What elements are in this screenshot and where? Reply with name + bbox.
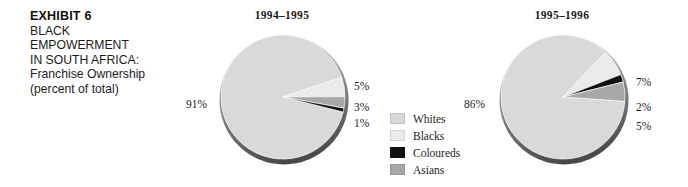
pct-label-right-blacks: 7% bbox=[636, 76, 651, 88]
pie-chart-1994-1995: 1994–1995 91% 5% 3% 1% bbox=[182, 0, 382, 187]
pie-svg-right bbox=[494, 27, 632, 167]
caption-line-3: IN SOUTH AFRICA: bbox=[30, 53, 185, 68]
legend-label-blacks: Blacks bbox=[413, 130, 444, 142]
exhibit-caption: EXHIBIT 6 BLACK EMPOWERMENT IN SOUTH AFR… bbox=[30, 9, 185, 96]
legend-label-whites: Whites bbox=[413, 113, 446, 125]
legend-swatch-asians-icon bbox=[390, 164, 405, 175]
pct-label-right-asians: 5% bbox=[636, 120, 651, 132]
exhibit-number: EXHIBIT 6 bbox=[30, 9, 185, 24]
pie-title-left: 1994–1995 bbox=[182, 9, 382, 21]
chart-legend: Whites Blacks Coloureds Asians bbox=[390, 110, 482, 178]
pct-label-left-whites: 91% bbox=[186, 98, 207, 110]
pct-label-right-coloureds: 2% bbox=[636, 101, 651, 113]
legend-label-asians: Asians bbox=[413, 164, 444, 176]
caption-line-4: Franchise Ownership bbox=[30, 67, 185, 82]
pct-label-left-coloureds: 1% bbox=[354, 117, 369, 129]
legend-item-whites: Whites bbox=[390, 110, 482, 127]
pie-svg-left bbox=[214, 27, 352, 167]
pie-stage-right bbox=[494, 27, 632, 167]
pie-stage-left bbox=[214, 27, 352, 167]
legend-swatch-blacks-icon bbox=[390, 130, 405, 141]
pie-chart-1995-1996: 1995–1996 86% 7% 2% 5% bbox=[462, 0, 662, 187]
caption-line-1: BLACK bbox=[30, 24, 185, 39]
pie-title-right: 1995–1996 bbox=[462, 9, 662, 21]
legend-swatch-coloureds-icon bbox=[390, 147, 405, 158]
pct-label-right-whites: 86% bbox=[464, 98, 485, 110]
legend-item-coloureds: Coloureds bbox=[390, 144, 482, 161]
legend-item-blacks: Blacks bbox=[390, 127, 482, 144]
caption-line-5: (percent of total) bbox=[30, 82, 185, 97]
pct-label-left-asians: 3% bbox=[354, 101, 369, 113]
legend-item-asians: Asians bbox=[390, 161, 482, 178]
legend-swatch-whites-icon bbox=[390, 113, 405, 124]
legend-label-coloureds: Coloureds bbox=[413, 147, 460, 159]
caption-line-2: EMPOWERMENT bbox=[30, 38, 185, 53]
pct-label-left-blacks: 5% bbox=[354, 80, 369, 92]
